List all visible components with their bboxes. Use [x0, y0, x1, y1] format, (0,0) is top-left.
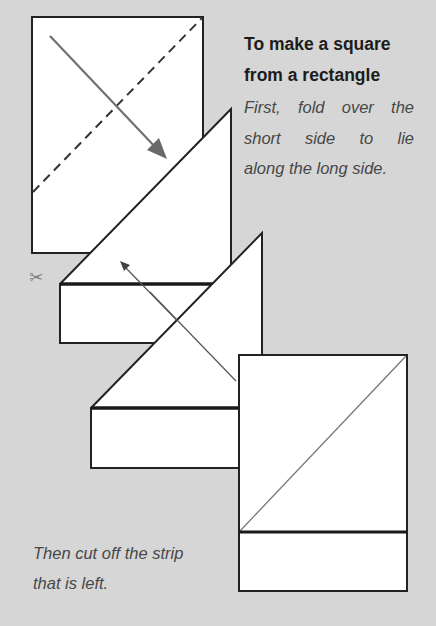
scissors-icon: ✂: [29, 268, 43, 286]
instruction-heading: To make a square from a rectangle: [244, 29, 416, 91]
step-2-line-2: that is left.: [33, 569, 223, 599]
step-1-text: First, fold over the short side to lie a…: [244, 92, 414, 184]
heading-line-1: To make a square: [244, 29, 416, 60]
step-2-text: Then cut off the strip that is left.: [33, 539, 223, 598]
stage-4-square: [239, 355, 407, 591]
step-2-line-1: Then cut off the strip: [33, 539, 223, 569]
step-1-line-3: along the long side.: [244, 153, 414, 184]
step-1-line-2: short side to lie: [244, 123, 414, 154]
step-1-line-1: First, fold over the: [244, 92, 414, 123]
heading-line-2: from a rectangle: [244, 60, 416, 91]
